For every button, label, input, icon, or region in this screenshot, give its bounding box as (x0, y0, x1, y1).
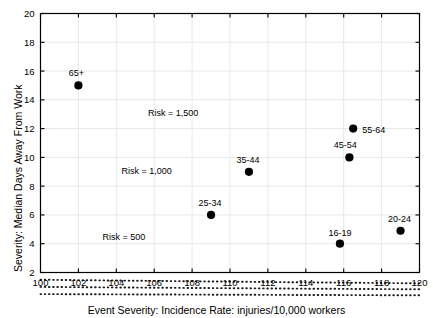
risk-curve-label: Risk = 1,500 (148, 108, 198, 118)
data-point-label: 35-44 (236, 155, 259, 165)
x-tick-label: 108 (184, 277, 200, 288)
data-point[interactable] (349, 125, 357, 133)
data-point-label: 65+ (69, 68, 84, 78)
data-point[interactable] (207, 211, 215, 219)
data-point[interactable] (345, 153, 353, 161)
y-tick-label: 6 (29, 209, 34, 220)
y-tick-label: 14 (24, 94, 35, 105)
y-tick-label: 4 (29, 238, 34, 249)
y-tick-label: 20 (24, 8, 35, 19)
x-axis-title: Event Severity: Incidence Rate: injuries… (0, 304, 433, 316)
x-tick-label: 112 (260, 277, 275, 288)
y-tick-label: 12 (24, 123, 35, 134)
data-point[interactable] (74, 81, 82, 89)
x-tick-label: 106 (146, 277, 162, 288)
x-tick-label: 114 (298, 277, 313, 288)
x-tick-label: 110 (222, 277, 237, 288)
x-tick-label: 120 (412, 277, 428, 288)
y-tick-label: 18 (24, 37, 35, 48)
data-point[interactable] (336, 240, 344, 248)
x-tick-label: 118 (374, 277, 389, 288)
scatter-plot: 1001021041061081101121141161181202468101… (0, 0, 433, 318)
risk-curve-label: Risk = 1,000 (121, 166, 171, 176)
y-tick-label: 8 (29, 181, 34, 192)
x-tick-label: 100 (33, 277, 49, 288)
data-point[interactable] (396, 227, 404, 235)
data-point-label: 25-34 (199, 198, 222, 208)
y-tick-label: 10 (24, 152, 35, 163)
data-point-label: 45-54 (334, 140, 357, 150)
data-point[interactable] (245, 168, 253, 176)
data-point-label: 20-24 (388, 214, 411, 224)
risk-curve (41, 294, 420, 295)
y-axis-title: Severity: Median Days Away From Work (12, 84, 24, 272)
chart-figure: 1001021041061081101121141161181202468101… (0, 0, 433, 318)
y-tick-label: 16 (24, 66, 35, 77)
risk-curve-label: Risk = 500 (102, 232, 145, 242)
data-point-label: 55-64 (362, 125, 385, 135)
data-point-label: 16-19 (328, 228, 351, 238)
x-tick-label: 116 (336, 277, 351, 288)
y-tick-label: 2 (29, 267, 34, 278)
x-tick-label: 104 (108, 277, 124, 288)
x-tick-label: 102 (70, 277, 86, 288)
